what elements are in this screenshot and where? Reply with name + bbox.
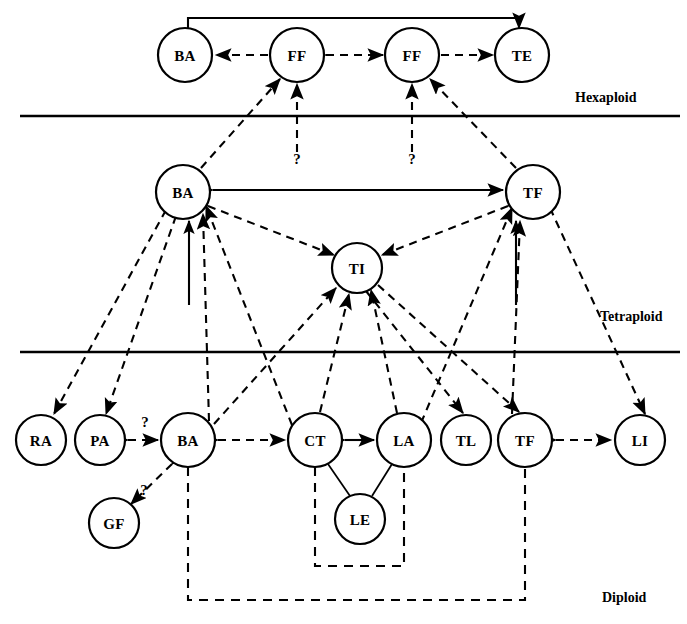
question-mark-ff1: ? (293, 151, 301, 167)
node-label: TF (523, 185, 543, 201)
node-d-ct[interactable]: CT (288, 413, 342, 467)
node-label: FF (403, 48, 422, 64)
edge-t-ba-t-ti (208, 206, 334, 255)
node-h-ff2[interactable]: FF (385, 28, 439, 82)
edge-t-ba-to-ff1 (201, 79, 280, 168)
edge-t-ti-to-d-tf (378, 285, 519, 412)
ploidy-labels: Hexaploid Tetraploid Diploid (575, 90, 663, 605)
node-label: LE (350, 512, 371, 528)
edge-d-ct-to-t-ba (206, 206, 292, 425)
edges-diploid-to-tetraploid (54, 206, 645, 425)
edge-d-la-d-le (372, 464, 392, 496)
label-diploid: Diploid (602, 590, 647, 605)
ploidy-relationship-diagram: BA FF FF TE BA TF TI RA (0, 0, 687, 624)
question-mark-ff2: ? (408, 151, 416, 167)
edge-t-tf-t-ti (382, 206, 508, 255)
node-h-ff1[interactable]: FF (270, 28, 324, 82)
node-label: CT (304, 433, 325, 449)
node-h-ba[interactable]: BA (158, 28, 212, 82)
question-mark-ba-gf: ? (140, 482, 148, 498)
edge-d-ba-to-t-ba (203, 214, 209, 421)
node-label: TI (349, 261, 365, 277)
node-label: TL (456, 433, 477, 449)
node-label: FF (288, 48, 307, 64)
edge-t-ba-d-pa (106, 216, 176, 414)
edge-t-ba-d-ra (54, 210, 166, 414)
node-label: BA (177, 433, 198, 449)
node-d-li[interactable]: LI (615, 415, 665, 465)
edge-t-tf-to-ff2 (430, 79, 516, 168)
node-d-ba[interactable]: BA (161, 413, 215, 467)
node-label: LA (393, 433, 414, 449)
edges-tetraploid-to-hexaploid (201, 79, 516, 168)
node-label: TE (512, 48, 533, 64)
edge-d-ba-to-t-ti (214, 288, 336, 424)
node-label: LI (632, 433, 648, 449)
nodes: BA FF FF TE BA TF TI RA (16, 28, 665, 548)
ploidy-dividers (20, 116, 680, 352)
edge-d-la-to-t-tf (421, 208, 512, 423)
label-tetraploid: Tetraploid (600, 309, 663, 324)
edges-hexaploid (188, 18, 519, 55)
node-h-te[interactable]: TE (495, 28, 549, 82)
node-d-le[interactable]: LE (335, 494, 385, 544)
edge-d-ct-d-le (328, 464, 350, 496)
node-d-tl[interactable]: TL (441, 415, 491, 465)
node-d-ra[interactable]: RA (16, 415, 66, 465)
node-d-la[interactable]: LA (377, 413, 431, 467)
node-label: GF (103, 516, 124, 532)
node-label: BA (172, 185, 193, 201)
node-label: TF (515, 433, 535, 449)
node-t-ti[interactable]: TI (332, 243, 382, 293)
node-d-pa[interactable]: PA (75, 415, 125, 465)
node-t-tf[interactable]: TF (506, 165, 560, 219)
question-mark-pa-ba: ? (141, 414, 149, 430)
edges-diploid-to-ti (214, 285, 519, 424)
edge-ba-te-top (188, 18, 519, 28)
node-label: PA (90, 433, 109, 449)
node-d-gf[interactable]: GF (89, 498, 139, 548)
node-d-tf[interactable]: TF (498, 413, 552, 467)
node-t-ba[interactable]: BA (156, 165, 210, 219)
label-hexaploid: Hexaploid (575, 90, 637, 105)
node-label: BA (174, 48, 195, 64)
node-label: RA (30, 433, 52, 449)
edge-d-ba-d-gf (131, 464, 172, 504)
